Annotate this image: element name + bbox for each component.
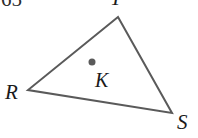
interior-point-k-dot — [89, 59, 96, 66]
geometry-figure: 65 T R S K — [0, 0, 198, 138]
triangle-rts-outline — [28, 17, 172, 113]
vertex-label-s: S — [177, 112, 188, 133]
interior-point-label-k: K — [95, 70, 108, 90]
vertex-label-r: R — [5, 82, 18, 103]
vertex-label-t: T — [110, 0, 122, 9]
